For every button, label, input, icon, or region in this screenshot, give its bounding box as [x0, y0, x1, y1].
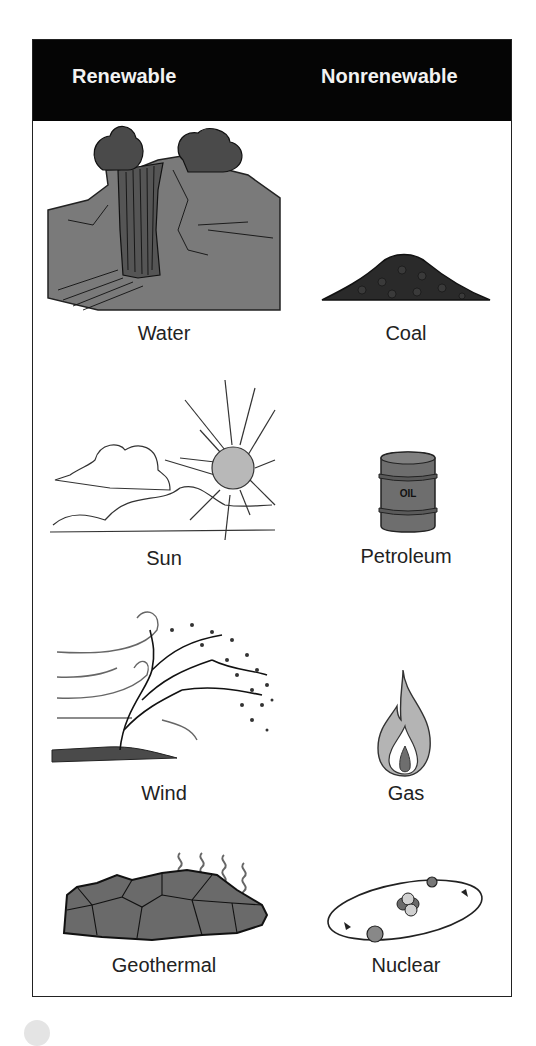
gas-label: Gas: [306, 782, 506, 805]
waterfall-icon: [48, 130, 280, 310]
coal-pile-icon: [322, 250, 490, 305]
table-header: Renewable Nonrenewable: [33, 40, 511, 121]
sun-label: Sun: [64, 547, 264, 570]
barrel-oil-text: OIL: [400, 488, 417, 499]
nuclear-label: Nuclear: [306, 954, 506, 977]
oil-barrel-icon: OIL: [377, 450, 439, 534]
atom-icon: [325, 870, 485, 950]
flame-icon: [375, 668, 435, 778]
nonrenewable-column-header: Nonrenewable: [321, 65, 458, 88]
geothermal-rock-icon: [62, 845, 272, 945]
scan-artifact: [24, 1020, 50, 1046]
coal-label: Coal: [306, 322, 506, 345]
geothermal-label: Geothermal: [64, 954, 264, 977]
sun-icon: [50, 380, 275, 540]
windblown-tree-icon: [52, 600, 282, 765]
water-label: Water: [64, 322, 264, 345]
wind-label: Wind: [64, 782, 264, 805]
petroleum-label: Petroleum: [306, 545, 506, 568]
renewable-column-header: Renewable: [72, 65, 176, 88]
